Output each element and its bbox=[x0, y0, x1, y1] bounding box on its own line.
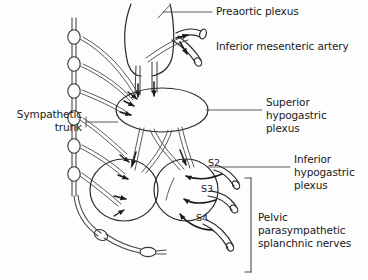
label-pelvic-splanchnic-nerves: Pelvic parasympathetic splanchnic nerves bbox=[258, 211, 368, 250]
hypogastric-nerves bbox=[131, 127, 194, 173]
pelvic-splanchnic-nerves bbox=[203, 166, 241, 252]
inferior-hypogastric-plexus-left bbox=[90, 159, 158, 221]
hypogastric-arrows bbox=[132, 150, 186, 166]
impar-tail bbox=[156, 250, 166, 254]
superior-hypogastric-plexus bbox=[116, 88, 208, 132]
sympathetic-fibers bbox=[80, 37, 138, 206]
label-inferior-hypogastric-plexus: Inferior hypogastric plexus bbox=[294, 153, 368, 192]
label-s4: S4 bbox=[196, 212, 208, 223]
preaortic-plexus bbox=[125, 4, 174, 76]
inferior-mesenteric-artery bbox=[172, 28, 208, 67]
leader-lines bbox=[86, 6, 290, 167]
sympathetic-arrows-inferior-left bbox=[114, 155, 129, 216]
label-s2: S2 bbox=[208, 157, 220, 168]
label-inferior-mesenteric-artery: Inferior mesenteric artery bbox=[216, 40, 349, 53]
label-sympathetic-trunk: Sympathetic trunk bbox=[2, 108, 82, 134]
label-s3: S3 bbox=[201, 183, 213, 194]
pelvic-splanchnic-bracket bbox=[245, 178, 251, 272]
sympathetic-ganglia bbox=[68, 30, 80, 181]
periarterial-nerve-fibers bbox=[146, 36, 188, 62]
ganglion-impar bbox=[140, 247, 156, 256]
anatomy-diagram: Preaortic plexus Inferior mesenteric art… bbox=[0, 0, 368, 280]
label-preaortic-plexus: Preaortic plexus bbox=[216, 5, 299, 18]
right-plexus-internal-fibers bbox=[166, 178, 174, 200]
ganglion-impar-chain bbox=[74, 195, 141, 253]
label-superior-hypogastric-plexus: Superior hypogastric plexus bbox=[266, 96, 368, 135]
